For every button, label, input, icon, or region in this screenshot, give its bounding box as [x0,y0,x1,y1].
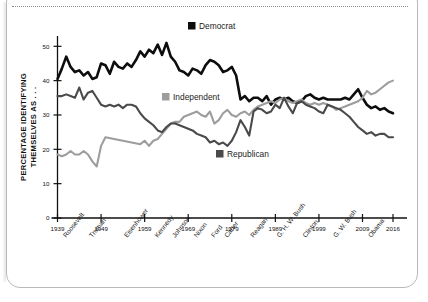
legend-label-republican: Republican [227,149,269,159]
chart-svg: 0102030405019391949195919691979198919992… [0,0,428,302]
y-axis-title: THEMSELVES AS . . . [29,87,38,168]
legend-label-democrat: Democrat [199,21,236,31]
president-label: Roosevelt [61,211,85,239]
series-line-democrat [58,43,394,113]
president-label: G. W. Bush [332,208,358,239]
x-tick-label: 2016 [386,225,400,232]
president-label: Eisenhower [122,207,149,239]
chart-page: 0102030405019391949195919691979198919992… [0,0,428,302]
series-line-independent [58,81,394,167]
y-tick-label: 0 [46,214,50,221]
president-label: Ford [210,223,224,238]
x-tick-label: 1939 [51,225,65,232]
y-tick-label: 50 [43,43,50,50]
legend-swatch-independent [162,93,170,101]
y-tick-label: 30 [43,111,50,118]
legend-swatch-republican [216,150,224,158]
y-tick-label: 20 [43,146,50,153]
legend-label-independent: Independent [173,92,220,102]
y-tick-label: 10 [43,180,50,187]
chart-legend: DemocratIndependentRepublican [162,21,269,159]
series-layer [58,43,394,167]
x-tick-label: 2009 [356,225,370,232]
party-identification-line-chart: 0102030405019391949195919691979198919992… [0,0,428,302]
x-tick-label: 1959 [138,225,152,232]
y-tick-label: 40 [43,77,50,84]
y-axis-title: PERCENTAGE IDENTIFYING [19,73,28,181]
legend-swatch-democrat [188,22,196,30]
president-label: Reagan [249,216,270,239]
president-label: Nixon [192,221,208,239]
